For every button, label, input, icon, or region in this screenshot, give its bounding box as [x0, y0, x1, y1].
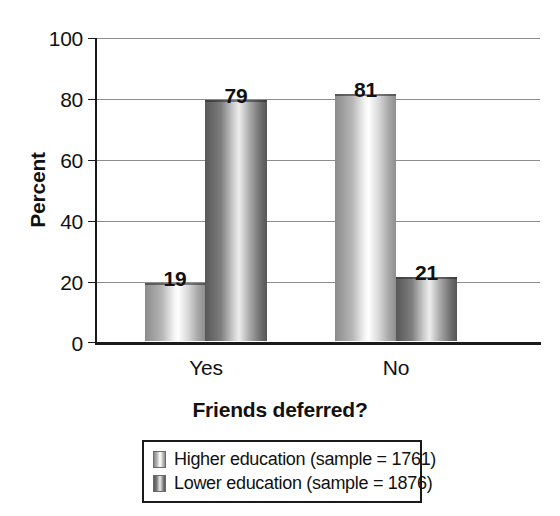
plot-area: [95, 38, 540, 343]
y-tick-label-80: 80: [27, 89, 83, 110]
legend-item-higher-education[interactable]: Higher education (sample = 1761): [153, 447, 411, 471]
chart-legend: Higher education (sample = 1761) Lower e…: [142, 440, 422, 503]
y-tick-mark-80: [88, 99, 95, 100]
y-tick-mark-20: [88, 282, 95, 283]
x-axis-title: Friends deferred?: [0, 398, 560, 422]
legend-swatch-higher-education-icon: [153, 451, 166, 468]
x-axis-line: [95, 342, 541, 345]
x-tick-label-yes: Yes: [145, 356, 267, 380]
bar-yes-higher-education[interactable]: [145, 283, 205, 341]
bar-value-yes-lower: 79: [205, 85, 267, 106]
y-tick-label-20: 20: [27, 272, 83, 293]
bar-value-no-lower: 21: [396, 262, 457, 283]
bar-value-yes-higher: 19: [145, 268, 205, 289]
x-tick-label-no: No: [335, 356, 457, 380]
gridline-60: [95, 160, 540, 161]
y-tick-label-0: 0: [27, 333, 83, 354]
legend-label-lower-education: Lower education (sample = 1876): [174, 473, 432, 494]
legend-label-higher-education: Higher education (sample = 1761): [174, 449, 436, 470]
y-tick-mark-0: [88, 342, 95, 343]
bar-yes-lower-education[interactable]: [205, 100, 267, 341]
y-tick-mark-60: [88, 160, 95, 161]
y-tick-label-60: 60: [27, 150, 83, 171]
gridline-40: [95, 221, 540, 222]
bar-chart-figure: Percent 100 80 60 40 20 0: [0, 0, 560, 516]
bar-value-no-higher: 81: [335, 79, 396, 100]
bar-no-lower-education[interactable]: [396, 277, 457, 341]
legend-swatch-lower-education-icon: [153, 475, 166, 492]
legend-item-lower-education[interactable]: Lower education (sample = 1876): [153, 471, 411, 495]
bar-no-higher-education[interactable]: [335, 94, 396, 341]
y-tick-mark-100: [88, 38, 95, 39]
y-axis-line: [95, 38, 97, 344]
y-axis-tick-labels: 100 80 60 40 20 0: [27, 0, 83, 516]
gridline-80: [95, 99, 540, 100]
y-tick-mark-40: [88, 221, 95, 222]
gridline-100: [95, 38, 540, 39]
y-tick-label-100: 100: [27, 28, 83, 49]
y-tick-label-40: 40: [27, 211, 83, 232]
